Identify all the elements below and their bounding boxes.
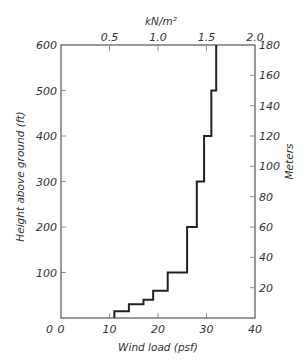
x-axis-title: Wind load (psf) <box>118 341 198 353</box>
x2-tick-label: 1.0 <box>149 31 167 44</box>
plot-frame <box>61 45 255 318</box>
x2-tick-label: 1.5 <box>198 31 216 44</box>
y2-tick-label: 80 <box>259 191 273 204</box>
y-tick-label: 300 <box>36 176 57 189</box>
y-tick-label: 600 <box>36 39 57 52</box>
wind-load-chart: 01020304001002003004005006000.51.01.52.0… <box>0 0 308 361</box>
y-tick-label: 500 <box>36 85 57 98</box>
x2-axis-title: kN/m² <box>145 15 178 27</box>
y-tick-label: 200 <box>36 221 57 234</box>
y-tick-label: 0 <box>46 323 53 336</box>
y-tick-label: 400 <box>36 130 57 143</box>
wind-load-step-line <box>114 45 216 318</box>
y2-tick-label: 140 <box>259 100 280 113</box>
y2-tick-label: 160 <box>259 69 280 82</box>
y2-tick-label: 20 <box>259 282 273 295</box>
y2-tick-label: 180 <box>259 39 280 52</box>
y2-axis-title: Meters <box>283 143 295 179</box>
y2-tick-label: 120 <box>259 130 280 143</box>
y-axis-title: Height above ground (ft) <box>14 111 26 241</box>
y2-tick-label: 100 <box>259 160 280 173</box>
x-tick-label: 20 <box>151 323 165 336</box>
x-tick-label: 0 <box>58 323 65 336</box>
x2-tick-label: 0.5 <box>101 31 119 44</box>
x-tick-label: 30 <box>200 323 214 336</box>
x-tick-label: 10 <box>103 323 117 336</box>
x-tick-label: 40 <box>248 323 262 336</box>
y2-tick-label: 60 <box>259 221 273 234</box>
y2-tick-label: 40 <box>259 251 273 264</box>
y-tick-label: 100 <box>36 267 57 280</box>
